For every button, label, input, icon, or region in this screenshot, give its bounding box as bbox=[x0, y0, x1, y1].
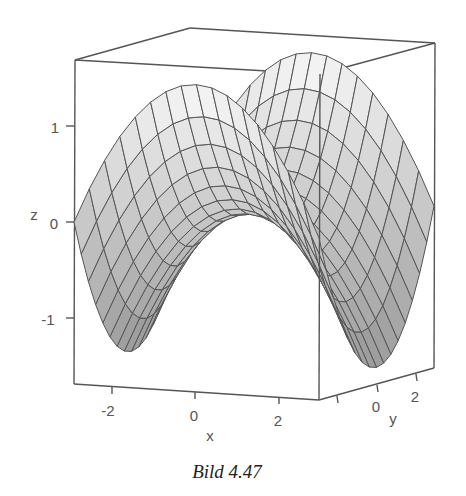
x-tick-neg2: -2 bbox=[101, 402, 114, 419]
x-tick-0: 0 bbox=[190, 407, 198, 424]
z-tick-0: 0 bbox=[50, 215, 58, 232]
z-axis bbox=[66, 126, 74, 318]
figure-caption: Bild 4.47 bbox=[0, 461, 466, 483]
x-axis-label: x bbox=[206, 427, 214, 444]
y-axis-label: y bbox=[389, 410, 397, 427]
saddle-surface bbox=[74, 53, 434, 368]
y-tick-0: 0 bbox=[372, 398, 380, 415]
z-tick-neg1: -1 bbox=[41, 311, 54, 328]
z-axis-label: z bbox=[30, 206, 38, 223]
caption-text: Bild 4.47 bbox=[192, 461, 262, 483]
y-tick-2: 2 bbox=[411, 388, 419, 405]
x-tick-2: 2 bbox=[274, 412, 282, 429]
surface-plot: 1 0 -1 z -2 0 2 x 0 2 y bbox=[0, 0, 466, 496]
z-tick-1: 1 bbox=[51, 119, 59, 136]
